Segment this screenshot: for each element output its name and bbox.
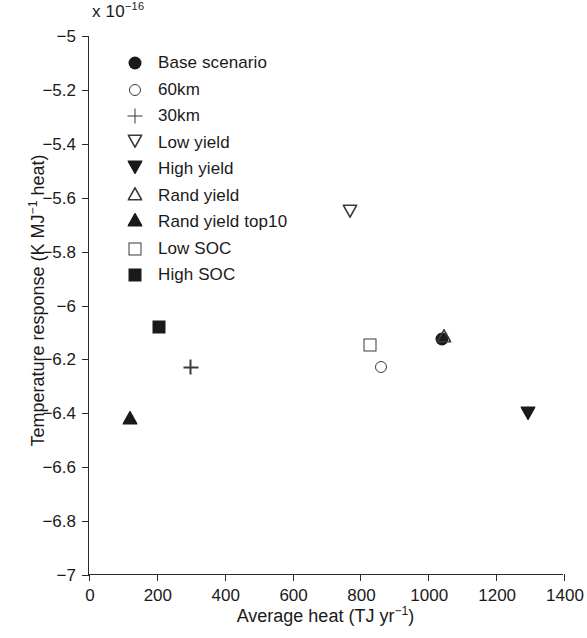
legend-marker: [124, 262, 158, 289]
x-axis-tick-label: 1000: [410, 586, 448, 606]
y-axis-tick: −6.4: [82, 413, 89, 414]
legend-marker-open-up-triangle-icon: [128, 187, 143, 205]
x-axis-tick-label: 600: [279, 586, 307, 606]
data-point-high-yield: [521, 406, 536, 424]
legend-marker-open-square-icon: [129, 242, 142, 255]
legend-item-label: 30km: [158, 106, 200, 126]
legend-marker: [124, 236, 158, 263]
y-axis-multiplier: x 10−16: [92, 2, 144, 22]
y-axis-tick-label: −6: [57, 297, 76, 317]
legend-marker-filled-circle-icon: [129, 57, 142, 70]
y-axis-tick: −5.6: [82, 198, 89, 199]
x-axis-tick-label: 400: [212, 586, 240, 606]
x-axis-tick-label: 200: [144, 586, 172, 606]
legend-item-label: High yield: [158, 159, 234, 179]
y-axis-multiplier-base: x 10: [92, 2, 125, 21]
legend-item-label: Base scenario: [158, 53, 267, 73]
y-axis-tick: −6.6: [82, 467, 89, 468]
y-axis-title: Temperature response (K MJ−1 heat): [28, 31, 49, 571]
legend-item-label: Rand yield top10: [158, 212, 287, 232]
legend-marker-filled-square-icon: [129, 269, 142, 282]
y-axis-tick-label: −7: [57, 566, 76, 586]
x-axis-tick: 200: [157, 574, 158, 581]
x-axis-tick: 1000: [428, 574, 429, 581]
x-axis-tick: 800: [360, 574, 361, 581]
x-axis-tick: 1200: [496, 574, 497, 581]
legend-item-label: Low SOC: [158, 239, 231, 259]
legend-item: 30km: [124, 103, 414, 130]
y-axis-tick: −5.4: [82, 144, 89, 145]
data-point-30km: [183, 360, 198, 375]
legend-item-label: High SOC: [158, 265, 235, 285]
legend-marker-open-down-triangle-icon: [128, 134, 143, 152]
x-axis-tick-label: 1400: [546, 586, 584, 606]
legend-item-label: Rand yield: [158, 186, 239, 206]
legend-marker-open-circle-icon: [129, 84, 141, 96]
legend-marker: [124, 156, 158, 183]
legend-item: High SOC: [124, 262, 414, 289]
y-axis-tick: −6.8: [82, 521, 89, 522]
x-axis-tick: 600: [293, 574, 294, 581]
legend-item: Base scenario: [124, 50, 414, 77]
data-point-low-soc: [363, 338, 376, 351]
legend-marker-plus-icon: [128, 109, 143, 124]
legend-item: Low SOC: [124, 236, 414, 263]
y-axis-tick: −7: [82, 575, 89, 576]
y-axis-tick: −6.2: [82, 359, 89, 360]
legend-marker: [124, 103, 158, 130]
legend-marker: [124, 183, 158, 210]
x-axis-tick: 1400: [564, 574, 565, 581]
legend-item: High yield: [124, 156, 414, 183]
y-axis-tick: −5.2: [82, 90, 89, 91]
x-axis-title: Average heat (TJ yr−1): [88, 606, 563, 627]
x-axis-tick-label: 0: [85, 586, 94, 606]
data-point-60km: [375, 361, 387, 373]
legend-marker: [124, 50, 158, 77]
y-axis-tick: −5.8: [82, 252, 89, 253]
x-axis-tick-label: 800: [347, 586, 375, 606]
x-axis-tick: 400: [225, 574, 226, 581]
legend-item: Rand yield top10: [124, 209, 414, 236]
y-axis-tick: −5: [82, 36, 89, 37]
x-axis-tick-label: 1200: [478, 586, 516, 606]
legend-marker: [124, 209, 158, 236]
scatter-plot-figure: x 10−16 −5−5.2−5.4−5.6−5.8−6−6.2−6.4−6.6…: [0, 0, 587, 638]
legend-item: 60km: [124, 77, 414, 104]
data-point-rand-yield: [436, 329, 451, 347]
data-point-high-soc: [152, 321, 165, 334]
legend-marker: [124, 77, 158, 104]
legend-marker: [124, 130, 158, 157]
legend-marker-filled-down-triangle-icon: [128, 160, 143, 178]
legend: Base scenario60km30kmLow yieldHigh yield…: [124, 50, 414, 289]
y-axis-tick: −6: [82, 306, 89, 307]
legend-marker-filled-up-triangle-icon: [128, 213, 143, 231]
legend-item: Low yield: [124, 130, 414, 157]
y-axis-multiplier-exponent: −16: [125, 0, 144, 12]
legend-item-label: Low yield: [158, 133, 230, 153]
y-axis-tick-label: −5: [57, 27, 76, 47]
legend-item-label: 60km: [158, 80, 200, 100]
data-point-rand-yield-top10: [122, 411, 137, 429]
x-axis-tick: 0: [89, 574, 90, 581]
legend-item: Rand yield: [124, 183, 414, 210]
